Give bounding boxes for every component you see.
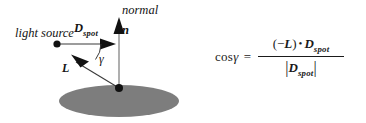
denominator-D-symbol: D: [289, 60, 298, 75]
light-direction-arrow: [71, 55, 89, 68]
spot-direction-label: Dspot: [74, 22, 98, 37]
fraction-denominator: |Dspot|: [281, 57, 320, 78]
numerator-D-subscript: spot: [314, 44, 330, 54]
cos-angle-symbol: γ: [233, 49, 238, 64]
equals-sign: =: [244, 49, 251, 65]
spot-direction-subscript: spot: [83, 28, 98, 38]
abs-bar-right: |: [313, 59, 316, 76]
numerator-D-symbol: D: [304, 36, 313, 51]
cosine-gamma-formula: cosγ = (−L)•Dspot |Dspot|: [215, 36, 344, 77]
fraction: (−L)•Dspot |Dspot|: [258, 36, 344, 77]
gamma-angle-label: γ: [99, 53, 104, 65]
normal-label: normal: [122, 4, 158, 17]
spot-direction-arrow: [100, 39, 116, 50]
surface-point-dot: [115, 84, 123, 92]
spot-direction-symbol: D: [74, 21, 83, 35]
fraction-numerator: (−L)•Dspot: [269, 36, 334, 56]
paren-close: ): [292, 36, 296, 51]
cos-text: cos: [215, 49, 233, 64]
light-source-dot: [53, 40, 60, 47]
denominator-D-subscript: spot: [298, 67, 314, 77]
light-source-label: light source: [15, 27, 74, 40]
normal-vector-label: n: [122, 24, 129, 37]
light-vector-label: L: [62, 62, 69, 74]
cos-term: cosγ: [215, 49, 239, 65]
dot-product-operator: •: [299, 37, 303, 49]
spotlight-diagram-figure: light source Dspot normal n L γ cosγ = (…: [0, 0, 366, 123]
